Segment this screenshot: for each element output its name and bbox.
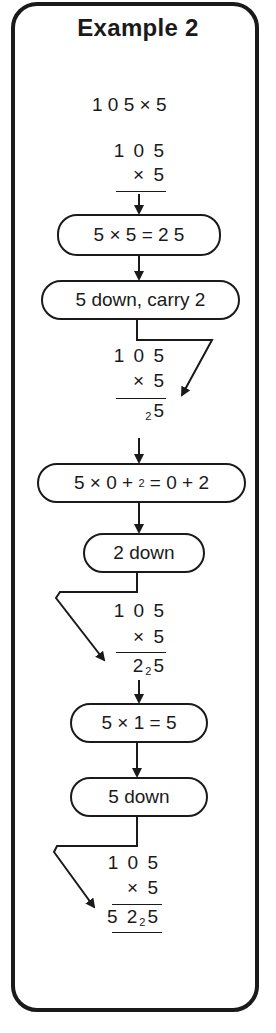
flow-arrows: [0, 0, 276, 1033]
arrow-icon: [56, 573, 137, 660]
arrow-icon: [54, 817, 137, 907]
arrow-icon: [137, 320, 212, 395]
